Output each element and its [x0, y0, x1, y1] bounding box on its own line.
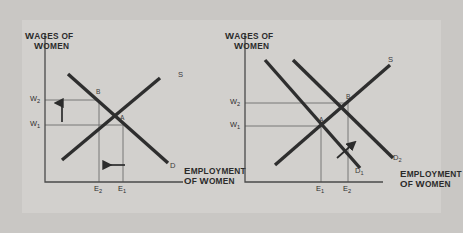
- left-y-axis-title: WAGES OF WOMEN: [25, 31, 73, 52]
- left-point-a: A: [120, 114, 124, 121]
- left-point-b: B: [96, 88, 100, 95]
- left-tick-w2: W2: [30, 95, 40, 103]
- right-y-axis-title: WAGES OF WOMEN: [225, 31, 273, 52]
- right-demand-1-label: D1: [355, 167, 364, 175]
- right-axes: [245, 33, 383, 182]
- left-tick-e2: E2: [94, 185, 102, 193]
- right-tick-w2: W2: [230, 98, 240, 106]
- left-tick-e1: E1: [118, 185, 126, 193]
- right-point-a: A: [319, 116, 323, 123]
- left-demand-label: D: [170, 162, 175, 170]
- right-point-b: B: [346, 93, 350, 100]
- supply-curve-left: [62, 78, 160, 160]
- right-demand-2-label: D2: [393, 154, 402, 162]
- right-tick-e1: E1: [316, 185, 324, 193]
- right-tick-w1: W1: [230, 121, 240, 129]
- left-supply-label: S: [178, 71, 183, 79]
- left-tick-w1: W1: [30, 120, 40, 128]
- figure-root: WAGES OF WOMEN EMPLOYMENT OF WOMEN W2 W1…: [0, 0, 463, 233]
- demand-curve-left: [68, 74, 168, 163]
- right-supply-label: S: [388, 56, 393, 64]
- chart-panel-right: WAGES OF WOMEN EMPLOYMENT OF WOMEN W2 W1…: [215, 0, 447, 233]
- right-x-axis-title: EMPLOYMENT OF WOMEN: [400, 169, 462, 190]
- right-tick-e2: E2: [343, 185, 351, 193]
- supply-curve-right: [275, 65, 390, 165]
- chart-panel-left: WAGES OF WOMEN EMPLOYMENT OF WOMEN W2 W1…: [0, 0, 232, 233]
